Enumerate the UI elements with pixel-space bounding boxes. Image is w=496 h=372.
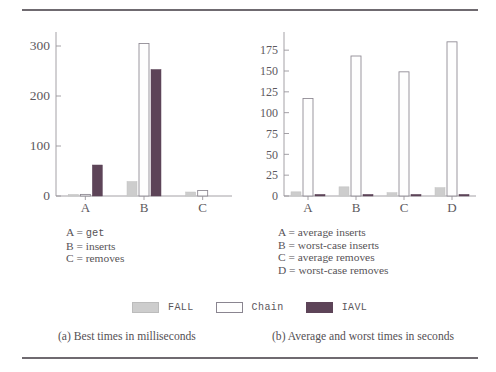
- legend-label-chain: Chain: [252, 302, 284, 313]
- key-equals: =: [76, 240, 82, 252]
- chart-b-plot: 0255075100125150175ABCD: [248, 26, 486, 222]
- key-row: C = average removes: [278, 251, 389, 264]
- key-equals: =: [288, 239, 294, 251]
- key-value: inserts: [86, 240, 116, 252]
- bar: [339, 187, 349, 196]
- key-letter: B: [66, 240, 74, 252]
- key-row: A = get: [66, 226, 124, 240]
- x-category-label: D: [447, 200, 456, 215]
- y-tick-label: 175: [260, 43, 278, 57]
- key-row: D = worst-case removes: [278, 264, 389, 277]
- y-tick-label: 100: [30, 138, 51, 153]
- y-tick-label: 0: [43, 188, 50, 203]
- bar: [127, 182, 137, 197]
- legend-swatch-fall: [132, 302, 159, 313]
- key-row: B = inserts: [66, 240, 124, 253]
- key-equals: =: [288, 251, 294, 263]
- panel-a: 0100200300ABC A = get B = inserts C = re…: [14, 26, 244, 222]
- bar: [387, 193, 397, 196]
- key-equals: =: [288, 226, 294, 238]
- bar: [92, 165, 102, 196]
- key-value: average removes: [298, 251, 375, 263]
- chart-a-plot: 0100200300ABC: [14, 26, 244, 222]
- key-value: average inserts: [298, 226, 366, 238]
- y-tick-label: 300: [30, 38, 51, 53]
- x-category-label: C: [400, 200, 409, 215]
- legend-entry-iavl: IAVL: [306, 302, 368, 313]
- chart-a-key: A = get B = inserts C = removes: [66, 226, 124, 265]
- legend-swatch-iavl: [306, 302, 333, 313]
- bar: [399, 72, 409, 196]
- caption-b: (b) Average and worst times in seconds: [272, 330, 454, 343]
- key-value: get: [86, 227, 105, 239]
- x-category-label: A: [81, 200, 91, 215]
- key-letter: C: [66, 252, 74, 264]
- x-category-label: B: [140, 200, 149, 215]
- x-category-label: A: [303, 200, 313, 215]
- legend-entry-chain: Chain: [216, 302, 284, 313]
- chart-b-svg: 0255075100125150175ABCD: [248, 26, 486, 222]
- y-tick-label: 200: [30, 88, 51, 103]
- rule-bottom: [22, 357, 478, 359]
- bar: [303, 99, 313, 197]
- bar: [435, 188, 445, 196]
- panel-b: 0255075100125150175ABCD A = average inse…: [248, 26, 486, 222]
- key-equals: =: [289, 264, 295, 276]
- y-tick-label: 75: [266, 127, 278, 141]
- bar: [459, 194, 469, 196]
- key-letter: C: [278, 251, 286, 263]
- y-tick-label: 0: [272, 189, 278, 203]
- legend-label-iavl: IAVL: [342, 302, 368, 313]
- x-category-label: B: [352, 200, 361, 215]
- key-letter: A: [66, 226, 74, 238]
- bar: [291, 192, 301, 196]
- chart-b-key: A = average inserts B = worst-case inser…: [278, 226, 389, 276]
- bar: [198, 191, 208, 197]
- caption-a: (a) Best times in milliseconds: [58, 330, 196, 343]
- bar: [186, 192, 196, 196]
- key-value: removes: [86, 252, 125, 264]
- legend-entry-fall: FALL: [132, 302, 194, 313]
- bar: [411, 194, 421, 196]
- key-row: B = worst-case inserts: [278, 239, 389, 252]
- key-letter: B: [278, 239, 286, 251]
- bar: [447, 42, 457, 196]
- x-category-label: C: [198, 200, 207, 215]
- bar: [315, 194, 325, 196]
- rule-top: [22, 9, 478, 11]
- bar: [139, 44, 149, 197]
- bar: [68, 194, 78, 196]
- chart-a-svg: 0100200300ABC: [14, 26, 244, 222]
- legend-label-fall: FALL: [168, 302, 194, 313]
- key-row: C = removes: [66, 252, 124, 265]
- y-tick-label: 100: [260, 106, 278, 120]
- key-value: worst-case inserts: [298, 239, 379, 251]
- bar: [151, 70, 161, 197]
- y-tick-label: 125: [260, 85, 278, 99]
- chart-legend: FALL Chain IAVL: [132, 302, 402, 313]
- y-tick-label: 150: [260, 64, 278, 78]
- key-value: worst-case removes: [298, 264, 388, 276]
- bar: [351, 56, 361, 196]
- key-letter: D: [278, 264, 286, 276]
- bar: [363, 194, 373, 196]
- key-equals: =: [76, 252, 82, 264]
- key-row: A = average inserts: [278, 226, 389, 239]
- key-letter: A: [278, 226, 286, 238]
- figure-root: 0100200300ABC A = get B = inserts C = re…: [0, 0, 496, 372]
- legend-swatch-chain: [216, 302, 243, 313]
- y-tick-label: 25: [266, 168, 278, 182]
- bar: [80, 194, 90, 196]
- key-equals: =: [76, 226, 82, 238]
- y-tick-label: 50: [266, 148, 278, 162]
